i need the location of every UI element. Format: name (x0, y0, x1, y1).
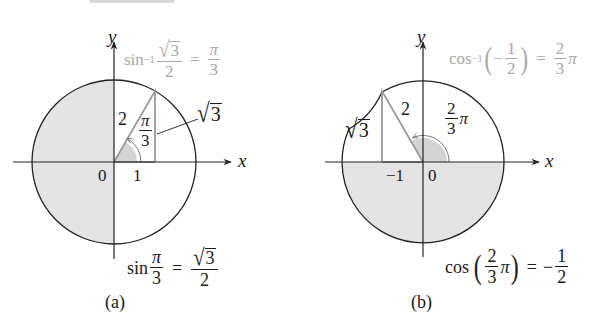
cosine-equation: cos ( 23 π ) = − 12 (445, 247, 570, 286)
origin-label-a: 0 (98, 167, 107, 184)
side-label-a: √3 (197, 102, 222, 125)
origin-label-b: 0 (428, 167, 437, 184)
caption-a: (a) (105, 293, 125, 311)
hypotenuse-label-a: 2 (118, 110, 127, 128)
inverse-cosine-equation: cos−1 ( − 12 ) = 23 π (449, 40, 577, 77)
x-axis-label-b: x (545, 151, 553, 170)
angle-wedge-a (114, 142, 137, 162)
tick-label-a: 1 (133, 167, 142, 184)
angle-label-b: 23 π (443, 100, 468, 137)
leader-line-a (157, 119, 198, 134)
inverse-sine-equation: sin−1 √32 = π3 (124, 40, 222, 80)
caption-b: (b) (411, 293, 432, 311)
angle-label-a: π3 (137, 112, 154, 149)
y-axis-label-a: y (108, 27, 116, 46)
sine-equation: sin π3 = √32 (127, 247, 220, 289)
y-axis-label-b: y (417, 27, 425, 46)
hypotenuse-label-b: 2 (401, 100, 410, 118)
side-label-b: √3 (345, 118, 370, 141)
x-axis-label-a: x (238, 151, 246, 170)
tick-label-b: −1 (386, 167, 404, 184)
